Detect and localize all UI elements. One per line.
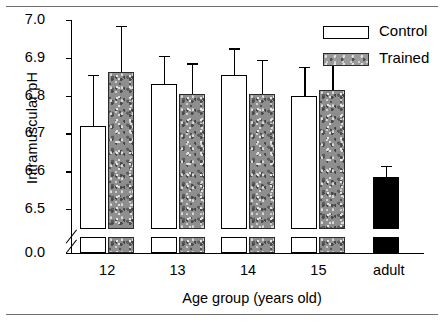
x-tick-label-12: 12 [72,262,142,278]
bar-trained-12 [108,72,134,229]
x-tick-label-14: 14 [213,262,283,278]
bar-control-12-stub [80,237,106,253]
bar-control-12 [80,126,106,229]
errorbar-trained-14-stem [262,60,263,95]
bar-adult-adult [373,177,399,229]
top-divider-rule [6,6,438,7]
y-tick-label-6.8: 6.8 [5,88,45,103]
errorbar-trained-12-stem [121,26,122,72]
y-tick-6.7 [66,133,72,134]
y-axis-line [71,20,72,254]
errorbar-control-14-cap [229,48,240,49]
bar-trained-15-stub [319,237,345,253]
bar-control-14 [221,75,247,229]
x-tick-label-adult: adult [354,262,424,278]
bar-control-15-stub [291,237,317,253]
bar-control-14-stub [221,237,247,253]
errorbar-adult-adult-stem [386,166,387,177]
bar-trained-13-stub [179,237,205,253]
legend-swatch-control [323,26,369,39]
bar-trained-12-stub [108,237,134,253]
x-axis-title: Age group (years old) [60,290,444,306]
errorbar-control-15-cap [299,67,310,68]
errorbar-control-12-stem [93,75,94,126]
y-tick-6.8 [66,96,72,97]
y-tick-7.0 [66,20,72,21]
errorbar-trained-14-cap [257,60,268,61]
y-tick-label-6.5: 6.5 [5,201,45,216]
bar-control-13 [151,84,177,229]
plot-area: 7.06.96.86.76.66.50.0 [72,20,424,254]
y-tick-6.5 [66,209,72,210]
bar-trained-14 [249,94,275,229]
x-axis-line [71,253,424,254]
errorbar-trained-12-cap [116,26,127,27]
y-tick-label-7.0: 7.0 [5,12,45,27]
bar-control-15 [291,96,317,229]
bar-trained-13 [179,94,205,229]
y-tick-label-6.6: 6.6 [5,163,45,178]
y-tick-label-0.0: 0.0 [5,245,45,260]
bar-trained-14-stub [249,237,275,253]
errorbar-control-15-stem [304,67,305,95]
errorbar-adult-adult-cap [381,166,392,167]
bar-control-13-stub [151,237,177,253]
errorbar-control-12-cap [88,75,99,76]
legend-swatch-trained [323,53,369,66]
errorbar-control-14-stem [234,48,235,74]
errorbar-trained-13-cap [187,63,198,64]
legend-label-trained: Trained [379,49,429,66]
legend-label-control: Control [379,22,427,39]
errorbar-control-13-stem [164,56,165,84]
y-tick-label-6.9: 6.9 [5,50,45,65]
x-tick-label-13: 13 [143,262,213,278]
y-tick-6.6 [66,171,72,172]
bar-trained-15 [319,90,345,229]
figure-bar-chart: Intramuscular pH Age group (years old) 7… [0,0,444,331]
errorbar-control-13-cap [159,56,170,57]
bar-adult-adult-stub [373,237,399,253]
y-tick-label-6.7: 6.7 [5,125,45,140]
y-tick-6.9 [66,58,72,59]
x-tick-label-15: 15 [283,262,353,278]
bottom-divider-rule [6,314,438,315]
errorbar-trained-13-stem [192,63,193,94]
